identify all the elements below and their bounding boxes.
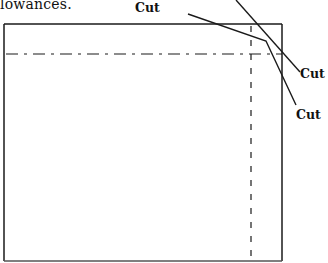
fabric-outline bbox=[4, 24, 282, 261]
pattern-diagram bbox=[0, 0, 328, 263]
cut-line-a bbox=[236, 0, 300, 72]
cut-label-right: Cut bbox=[300, 66, 325, 81]
cut-line-b bbox=[188, 14, 296, 105]
cut-label-bottom: Cut bbox=[296, 107, 321, 122]
cut-label-top: Cut bbox=[135, 0, 160, 15]
